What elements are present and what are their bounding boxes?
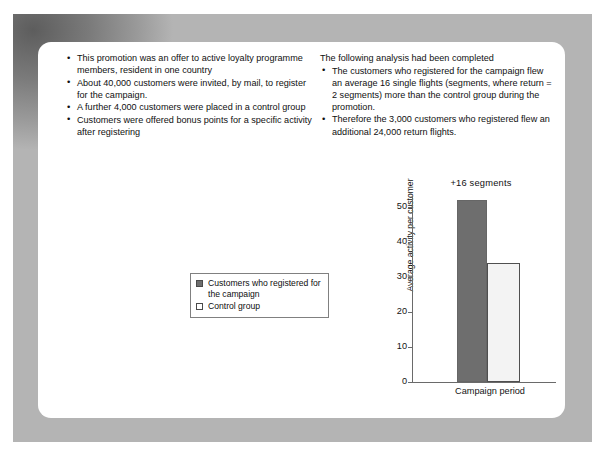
list-item: This promotion was an offer to active lo… [66,52,314,76]
y-tick-0: 0 [412,382,417,383]
y-tick-label: 50 [397,201,407,211]
chart-x-axis-label: Campaign period [426,386,554,396]
chart-title: +16 segments [416,178,546,188]
right-column-lead: The following analysis had been complete… [320,52,552,64]
bullet-text: Customers were offered bonus points for … [77,115,312,137]
bar-control-group [487,263,520,382]
left-bullet-list: This promotion was an offer to active lo… [66,52,314,138]
bullet-text: This promotion was an offer to active lo… [77,53,303,75]
bullet-text: Therefore the 3,000 customers who regist… [332,114,550,136]
y-tick-label: 10 [397,341,407,351]
chart-y-axis-line [412,196,413,382]
y-tick-label: 40 [397,236,407,246]
slide-card: This promotion was an offer to active lo… [38,42,565,418]
y-tick-10: 10 [412,347,417,348]
list-item: Therefore the 3,000 customers who regist… [320,113,552,137]
y-tick-20: 20 [412,312,417,313]
bullet-text: A further 4,000 customers were placed in… [77,102,305,112]
y-tick-label: 30 [397,271,407,281]
y-tick-30: 30 [412,277,417,278]
bullet-text: The customers who registered for the cam… [332,66,552,112]
y-tick-50: 50 [412,207,417,208]
list-item: About 40,000 customers were invited, by … [66,77,314,101]
chart-legend: Customers who registered for the campaig… [190,273,329,318]
list-item: The customers who registered for the cam… [320,65,552,113]
bar-chart: +16 segments Average activity per custom… [356,178,556,400]
bullet-text: About 40,000 customers were invited, by … [77,78,306,100]
y-tick-label: 0 [402,376,407,386]
y-tick-40: 40 [412,242,417,243]
legend-item-control: Control group [196,301,328,312]
dark-filled-square-icon [196,280,203,287]
slide-page: This promotion was an offer to active lo… [0,0,602,453]
light-outlined-square-icon [196,303,203,310]
right-text-column: The following analysis had been complete… [320,52,552,138]
left-text-column: This promotion was an offer to active lo… [66,52,314,139]
bar-registered [457,200,487,383]
chart-x-axis-line [412,382,556,383]
legend-item-label: Customers who registered for the campaig… [208,278,328,299]
y-tick-label: 20 [397,306,407,316]
chart-plot-area: 0 10 20 30 40 50 [412,196,556,406]
right-bullet-list: The customers who registered for the cam… [320,65,552,138]
legend-item-registered: Customers who registered for the campaig… [196,278,328,299]
list-item: A further 4,000 customers were placed in… [66,101,314,113]
legend-item-label: Control group [208,301,260,312]
list-item: Customers were offered bonus points for … [66,114,314,138]
